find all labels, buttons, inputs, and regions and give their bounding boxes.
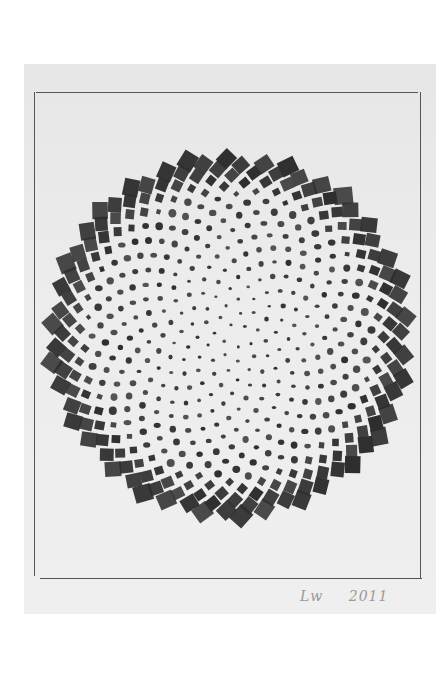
signature-initials: Lw bbox=[300, 588, 323, 604]
artist-signature: Lw 2011 bbox=[300, 588, 388, 604]
signature-year: 2011 bbox=[349, 588, 389, 604]
phyllotaxis-spiral-drawing bbox=[0, 0, 442, 683]
